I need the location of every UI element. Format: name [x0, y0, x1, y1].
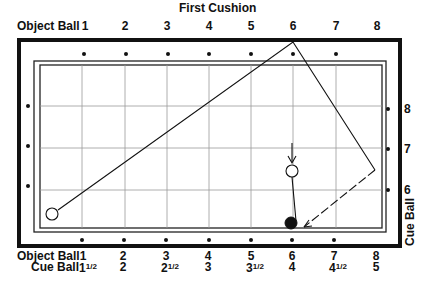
table-grid — [40, 65, 382, 228]
cushion-inner-line — [40, 65, 382, 228]
right-number-6: 6 — [404, 184, 411, 196]
bottom-cue-number-8: 5 — [373, 261, 380, 273]
right-number-7: 7 — [404, 143, 411, 155]
bottom-cue-number-4: 3 — [205, 261, 212, 273]
bottom-cue-ball-label: Cue Ball — [31, 261, 79, 273]
bottom-cue-number-2: 2 — [120, 261, 127, 273]
object-ball-black — [285, 217, 297, 229]
object-ball-white — [286, 165, 298, 177]
right-number-8: 8 — [404, 103, 411, 115]
bottom-cue-number-5: 31/2 — [246, 261, 264, 274]
cue-ball-return-path — [304, 170, 375, 227]
bottom-cue-number-3: 21/2 — [161, 261, 179, 274]
cushion-outer-line — [34, 61, 386, 232]
billiard-table-diagram — [0, 0, 426, 285]
bottom-cue-number-1: 11/2 — [79, 261, 97, 274]
bottom-cue-number-7: 41/2 — [329, 261, 347, 274]
cue-ball — [46, 208, 58, 220]
table-outer-frame — [19, 40, 400, 246]
diamond-markers — [26, 52, 390, 242]
bottom-cue-number-6: 4 — [289, 261, 296, 273]
right-axis-label: Cue Ball — [404, 198, 416, 246]
cue-ball-path — [58, 42, 375, 210]
